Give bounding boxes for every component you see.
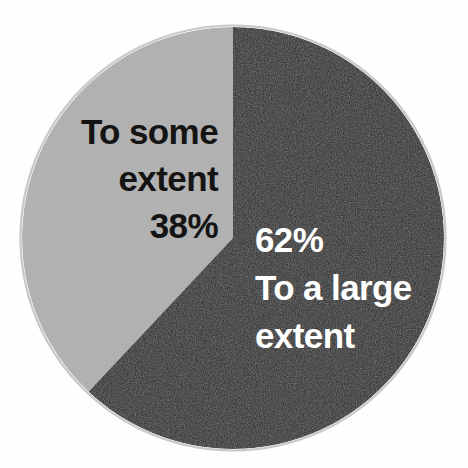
pie-label-some-line1: To some: [18, 112, 218, 151]
pie-label-to-some-extent: To some extent 38%: [18, 112, 218, 254]
pie-label-to-a-large-extent: 62% To a large extent: [255, 220, 455, 365]
pie-chart-figure: To some extent 38% 62% To a large extent: [0, 0, 468, 468]
pie-label-large-percent: 62%: [255, 220, 455, 259]
pie-label-large-line3: extent: [255, 316, 455, 355]
pie-label-large-line2: To a large: [255, 268, 455, 307]
pie-label-some-percent: 38%: [18, 206, 218, 245]
pie-label-some-line2: extent: [18, 159, 218, 198]
